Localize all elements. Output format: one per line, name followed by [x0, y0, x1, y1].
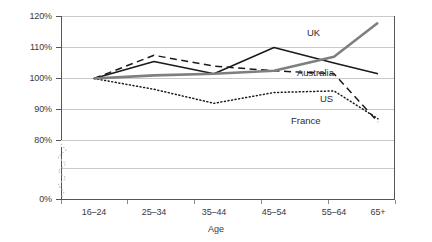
series-label-us: US — [320, 93, 333, 104]
x-tick-label-35-44: 35–44 — [184, 207, 244, 217]
y-tick-label-80: 80% — [8, 135, 52, 145]
plot-background — [61, 16, 395, 200]
chart-canvas — [0, 0, 432, 242]
x-tick-label-55-64: 55–64 — [304, 207, 364, 217]
x-tick-label-65plus: 65+ — [356, 207, 400, 217]
y-tick-label-110: 110% — [8, 42, 52, 52]
y-tick-label-90: 90% — [8, 104, 52, 114]
x-axis-title: Age — [186, 224, 246, 234]
line-chart: 120% 110% 100% 90% 80% 0% 16–24 25–34 35… — [0, 0, 432, 242]
x-tick-label-16-24: 16–24 — [64, 207, 124, 217]
series-label-uk: UK — [307, 27, 320, 38]
y-tick-label-0: 0% — [8, 194, 52, 204]
x-tick-marks — [61, 200, 395, 204]
y-tick-label-100: 100% — [8, 73, 52, 83]
x-tick-label-45-54: 45–54 — [244, 207, 304, 217]
y-tick-label-120: 120% — [8, 11, 52, 21]
series-label-france: France — [291, 115, 321, 126]
series-label-australia: Australia — [297, 67, 334, 78]
x-tick-label-25-34: 25–34 — [124, 207, 184, 217]
